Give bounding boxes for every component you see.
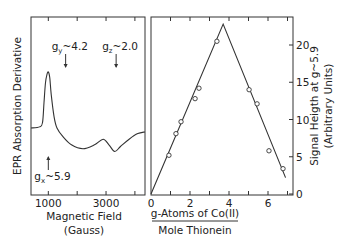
data-point xyxy=(167,153,171,157)
x-tick-label: 6 xyxy=(265,197,272,209)
annotation-label: gz~2.0 xyxy=(102,40,138,55)
data-point xyxy=(174,131,178,135)
y-tick-label: 5 xyxy=(296,151,303,163)
annotation-gy: gy~4.2 xyxy=(52,40,88,68)
epr-spectrum-panel: gy~4.2gz~2.0gx~5.9 10003000 Magnetic Fie… xyxy=(11,17,145,236)
left-x-axis-unit: (Gauss) xyxy=(64,224,104,236)
x-tick-label: 3000 xyxy=(93,197,120,209)
titration-panel: 0246 05101520 g-Atoms of Co(II) Mole Thi… xyxy=(148,17,334,236)
fit-line xyxy=(151,24,286,194)
data-point xyxy=(281,166,285,170)
left-x-tick-labels: 10003000 xyxy=(35,197,119,209)
data-point xyxy=(215,39,219,43)
right-plot-frame xyxy=(151,17,293,195)
data-point xyxy=(267,149,271,153)
left-x-axis-label: Magnetic Field xyxy=(46,210,122,222)
x-tick-label: 1000 xyxy=(35,197,62,209)
data-point xyxy=(247,88,251,92)
annotation-label: gx~5.9 xyxy=(34,170,70,185)
epr-curve xyxy=(31,72,145,152)
g-value-annotations: gy~4.2gz~2.0gx~5.9 xyxy=(34,40,138,185)
arrowhead-icon xyxy=(46,156,50,160)
right-x-label-numerator: g-Atoms of Co(II) xyxy=(151,207,239,219)
data-points xyxy=(167,39,285,171)
annotation-label: gy~4.2 xyxy=(52,40,88,55)
right-y-axis-unit: (Arbitrary Units) xyxy=(322,64,334,149)
data-point xyxy=(179,120,183,124)
arrowhead-icon xyxy=(114,64,118,68)
figure: gy~4.2gz~2.0gx~5.9 10003000 Magnetic Fie… xyxy=(0,0,350,248)
y-tick-label: 0 xyxy=(296,188,303,200)
data-point xyxy=(197,86,201,90)
data-point xyxy=(255,102,259,106)
left-y-axis-label: EPR Absorption Derivative xyxy=(11,37,23,175)
right-x-label-denominator: Mole Thionein xyxy=(158,224,231,236)
annotation-gz: gz~2.0 xyxy=(102,40,138,68)
right-y-axis-label: Signal Heigth at g~5.9 xyxy=(308,46,320,166)
arrowhead-icon xyxy=(64,64,68,68)
data-point xyxy=(193,96,197,100)
annotation-gx: gx~5.9 xyxy=(34,156,70,185)
